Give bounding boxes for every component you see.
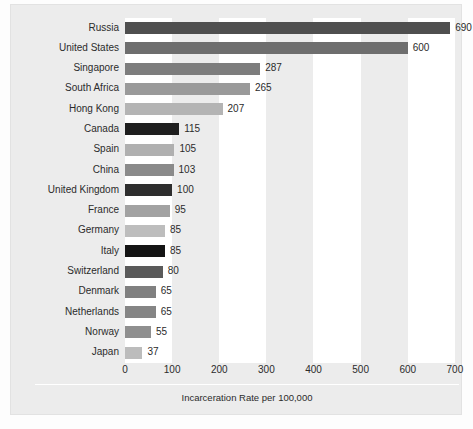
x-tick-label: 100 (164, 363, 181, 377)
bar-value-label: 103 (179, 163, 196, 177)
x-axis-title: Incarceration Rate per 100,000 (21, 391, 473, 405)
bar-value-label: 115 (184, 122, 200, 136)
category-label: Netherlands (23, 305, 119, 319)
bar (125, 225, 165, 237)
bar-row: 95 (125, 201, 469, 221)
bar (125, 22, 450, 34)
bar-row: 37 (125, 343, 469, 363)
chart-panel: RussiaUnited StatesSingaporeSouth Africa… (10, 4, 462, 415)
bar-row: 65 (125, 302, 469, 322)
bar-row: 85 (125, 221, 469, 241)
bar-rows: 6906002872652071151051031009585858065655… (125, 18, 469, 363)
category-axis-labels: RussiaUnited StatesSingaporeSouth Africa… (23, 18, 119, 363)
category-label: France (23, 203, 119, 217)
bar-value-label: 265 (255, 81, 272, 95)
category-label: United States (23, 41, 119, 55)
category-label: United Kingdom (23, 183, 119, 197)
bar (125, 266, 163, 278)
x-tick-label: 0 (122, 363, 128, 377)
bar-row: 65 (125, 282, 469, 302)
category-label: Denmark (23, 284, 119, 298)
bar-row: 690 (125, 18, 469, 38)
bar-value-label: 600 (413, 41, 430, 55)
category-label: Germany (23, 223, 119, 237)
bar-row: 265 (125, 79, 469, 99)
bar (125, 144, 174, 156)
x-tick-label: 600 (399, 363, 416, 377)
bar-row: 103 (125, 160, 469, 180)
bar-row: 287 (125, 59, 469, 79)
bar (125, 164, 174, 176)
category-label: Switzerland (23, 264, 119, 278)
plot-area: 6906002872652071151051031009585858065655… (125, 18, 469, 363)
x-tick-label: 500 (352, 363, 369, 377)
category-label: Russia (23, 21, 119, 35)
bar-row: 600 (125, 38, 469, 58)
bar-value-label: 207 (228, 102, 245, 116)
bar-row: 100 (125, 180, 469, 200)
category-label: Hong Kong (23, 102, 119, 116)
category-label: Singapore (23, 61, 119, 75)
category-label: Italy (23, 244, 119, 258)
bar-value-label: 55 (156, 325, 167, 339)
bar-row: 80 (125, 262, 469, 282)
bar-value-label: 85 (170, 244, 181, 258)
bar (125, 306, 156, 318)
bar-value-label: 100 (177, 183, 194, 197)
bar-row: 115 (125, 119, 469, 139)
category-label: Japan (23, 345, 119, 359)
bar (125, 245, 165, 257)
x-tick-label: 700 (447, 363, 464, 377)
x-tick-label: 300 (258, 363, 275, 377)
bar (125, 83, 250, 95)
bar-value-label: 287 (265, 61, 282, 75)
category-label: Spain (23, 142, 119, 156)
bar (125, 42, 408, 54)
bar-value-label: 37 (147, 345, 158, 359)
bar-value-label: 80 (168, 264, 179, 278)
bar-value-label: 85 (170, 223, 181, 237)
bar (125, 103, 223, 115)
bar-value-label: 105 (179, 142, 196, 156)
bar (125, 286, 156, 298)
bar-value-label: 65 (161, 305, 172, 319)
x-tick-label: 200 (211, 363, 228, 377)
bar-row: 85 (125, 241, 469, 261)
x-axis-ticks: 0100200300400500600700 (125, 363, 469, 381)
axis-divider-line (35, 384, 459, 385)
bar-row: 105 (125, 140, 469, 160)
bar (125, 347, 142, 359)
category-label: China (23, 163, 119, 177)
bar-value-label: 65 (161, 284, 172, 298)
bar-value-label: 95 (175, 203, 186, 217)
bar-row: 207 (125, 99, 469, 119)
chart-figure: RussiaUnited StatesSingaporeSouth Africa… (0, 0, 473, 429)
bar-value-label: 690 (455, 21, 472, 35)
bar (125, 205, 170, 217)
bar (125, 326, 151, 338)
category-label: South Africa (23, 81, 119, 95)
category-label: Canada (23, 122, 119, 136)
bar (125, 184, 172, 196)
bar (125, 63, 260, 75)
bar-row: 55 (125, 322, 469, 342)
bar (125, 123, 179, 135)
category-label: Norway (23, 325, 119, 339)
x-tick-label: 400 (305, 363, 322, 377)
